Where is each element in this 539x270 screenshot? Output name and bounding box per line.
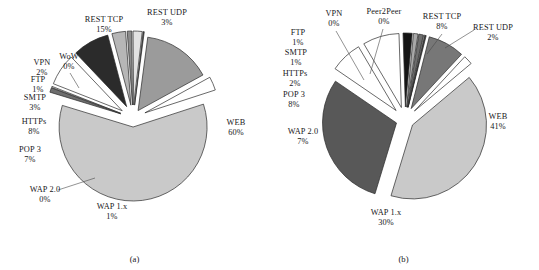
pie-label-percent: 3% xyxy=(24,103,46,113)
pie-label-text: Peer2Peer xyxy=(367,7,402,16)
pie-slice xyxy=(59,104,207,201)
pie-label-smtp: SMTP1% xyxy=(285,48,307,67)
pie-label-percent: 2% xyxy=(283,79,308,89)
pie-label-percent: 8% xyxy=(22,127,47,137)
pie-label-vpn: VPN2% xyxy=(33,58,50,77)
pie-label-pop3: POP 38% xyxy=(283,90,305,109)
pie-label-rest-udp: REST UDP2% xyxy=(473,23,513,42)
figure-pie-charts: WEB60%WAP 1.x1%WAP 2.00%POP 37%HTTPs8%SM… xyxy=(0,0,539,270)
pie-label-text: POP 3 xyxy=(283,90,305,99)
pie-label-percent: 0% xyxy=(367,17,402,27)
pie-label-vpn: VPN0% xyxy=(325,9,342,28)
pie-label-web: WEB60% xyxy=(227,118,246,137)
pie-label-peer2peer: Peer2Peer0% xyxy=(367,7,402,26)
caption-a: (a) xyxy=(0,254,269,264)
pie-label-text: SMTP xyxy=(285,48,307,57)
pie-label-percent: 8% xyxy=(283,100,305,110)
pie-label-rest-tcp: REST TCP15% xyxy=(85,15,123,34)
pie-label-pop3: POP 37% xyxy=(19,145,41,164)
pie-label-text: HTTPs xyxy=(22,117,47,126)
pie-label-text: REST TCP xyxy=(423,12,461,21)
pie-label-text: HTTPs xyxy=(283,69,308,78)
pie-label-https: HTTPs2% xyxy=(283,69,308,88)
pie-label-ftp: FTP1% xyxy=(291,28,306,47)
pie-label-wap1x: WAP 1.x30% xyxy=(371,208,402,227)
pie-label-percent: 1% xyxy=(291,38,306,48)
pie-label-percent: 15% xyxy=(85,25,123,35)
pie-label-wap1x: WAP 1.x1% xyxy=(97,202,128,221)
pie-label-smtp: SMTP3% xyxy=(24,93,46,112)
pie-label-percent: 1% xyxy=(285,58,307,68)
pie-label-percent: 0% xyxy=(325,19,342,29)
pie-label-percent: 2% xyxy=(473,33,513,43)
pie-label-text: WEB xyxy=(227,118,246,127)
pie-label-text: FTP xyxy=(291,28,306,37)
pie-label-text: VPN xyxy=(33,58,50,67)
pie-label-percent: 7% xyxy=(288,137,319,147)
panel-a: WEB60%WAP 1.x1%WAP 2.00%POP 37%HTTPs8%SM… xyxy=(0,0,269,270)
pie-label-ftp: FTP1% xyxy=(31,75,46,94)
pie-label-percent: 2% xyxy=(33,68,50,78)
pie-label-text: REST UDP xyxy=(473,23,513,32)
pie-label-percent: 0% xyxy=(30,195,61,205)
pie-label-text: WAP 2.0 xyxy=(30,185,61,194)
pie-label-percent: 7% xyxy=(19,155,41,165)
pie-label-percent: 60% xyxy=(227,128,246,138)
pie-label-text: WAP 1.x xyxy=(371,208,402,217)
caption-b: (b) xyxy=(269,254,538,264)
pie-label-text: POP 3 xyxy=(19,145,41,154)
pie-label-text: REST UDP xyxy=(147,8,187,17)
pie-label-https: HTTPs8% xyxy=(22,117,47,136)
pie-label-percent: 0% xyxy=(59,62,79,72)
pie-label-percent: 1% xyxy=(97,212,128,222)
pie-label-text: VPN xyxy=(325,9,342,18)
pie-label-rest-udp: REST UDP3% xyxy=(147,8,187,27)
panel-b: WEB41%WAP 1.x30%WAP 2.07%POP 38%HTTPs2%S… xyxy=(269,0,538,270)
pie-label-percent: 1% xyxy=(31,85,46,95)
pie-label-wow: WoW0% xyxy=(59,52,79,71)
pie-label-text: WEB xyxy=(489,112,508,121)
pie-label-wap20: WAP 2.07% xyxy=(288,127,319,146)
pie-label-wap20: WAP 2.00% xyxy=(30,185,61,204)
pie-label-percent: 8% xyxy=(423,22,461,32)
pie-label-text: WoW xyxy=(59,52,79,61)
pie-label-text: REST TCP xyxy=(85,15,123,24)
pie-label-text: WAP 1.x xyxy=(97,202,128,211)
pie-label-text: SMTP xyxy=(24,93,46,102)
pie-label-rest-tcp: REST TCP8% xyxy=(423,12,461,31)
pie-label-percent: 41% xyxy=(489,122,508,132)
pie-label-text: WAP 2.0 xyxy=(288,127,319,136)
pie-label-percent: 3% xyxy=(147,18,187,28)
pie-label-percent: 30% xyxy=(371,218,402,228)
pie-label-web: WEB41% xyxy=(489,112,508,131)
